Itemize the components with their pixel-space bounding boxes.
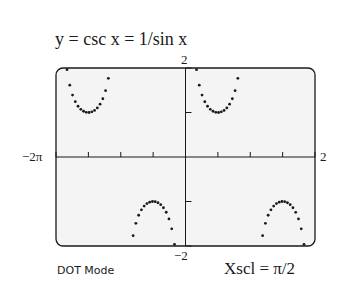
graph-screen: [0, 0, 352, 299]
